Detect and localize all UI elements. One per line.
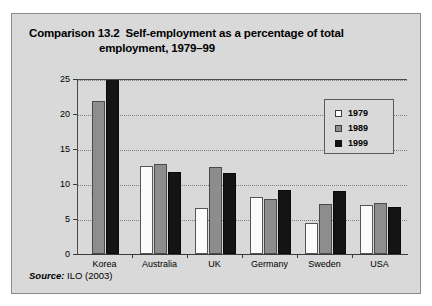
source-value: ILO (2003) xyxy=(64,270,112,281)
legend-item-1989: 1989 xyxy=(335,121,393,135)
x-axis-label-usa: USA xyxy=(352,259,407,269)
x-axis-tick xyxy=(242,254,243,258)
figure-title-line-1: Comparison 13.2 Self-employment as a per… xyxy=(29,26,401,41)
bar-sweden-1999 xyxy=(333,191,346,254)
x-axis-label-sweden: Sweden xyxy=(297,259,352,269)
x-axis-label-uk: UK xyxy=(187,259,242,269)
gridline xyxy=(78,185,407,186)
y-axis-tick-label: 5 xyxy=(50,215,70,224)
bar-uk-1979 xyxy=(195,208,208,254)
source-note: Source: ILO (2003) xyxy=(29,270,112,281)
y-axis-tick-label: 25 xyxy=(50,75,70,84)
bar-germany-1989 xyxy=(264,199,277,254)
bar-australia-1999 xyxy=(168,172,181,254)
legend-item-label: 1999 xyxy=(348,138,368,148)
legend-item-1999: 1999 xyxy=(335,136,393,150)
legend-item-1979: 1979 xyxy=(335,106,393,120)
y-axis-tick-label: 10 xyxy=(50,180,70,189)
gridline xyxy=(78,80,407,81)
bar-sweden-1989 xyxy=(319,204,332,254)
x-axis-tick xyxy=(132,254,133,258)
y-axis-tick-label: 20 xyxy=(50,110,70,119)
legend-item-label: 1979 xyxy=(348,108,368,118)
bar-uk-1989 xyxy=(209,167,222,254)
bar-australia-1989 xyxy=(154,164,167,254)
black-square-icon xyxy=(335,140,342,147)
bar-germany-1979 xyxy=(250,197,263,254)
bar-korea-1989 xyxy=(92,101,105,254)
y-axis: Per cent of total employment 0510152025 xyxy=(52,79,77,254)
bar-korea-1999 xyxy=(106,80,119,254)
gray-square-icon xyxy=(335,125,342,132)
x-axis-label-australia: Australia xyxy=(132,259,187,269)
white-square-icon xyxy=(335,110,342,117)
figure-title: Comparison 13.2 Self-employment as a per… xyxy=(29,26,401,56)
source-label: Source: xyxy=(29,270,64,281)
bar-usa-1989 xyxy=(374,203,387,254)
x-axis-tick xyxy=(187,254,188,258)
x-axis-tick xyxy=(352,254,353,258)
bar-usa-1999 xyxy=(388,207,401,254)
bar-germany-1999 xyxy=(278,190,291,254)
y-axis-tick-label: 15 xyxy=(50,145,70,154)
figure-panel: Comparison 13.2 Self-employment as a per… xyxy=(11,13,421,294)
x-axis-label-germany: Germany xyxy=(242,259,297,269)
chart-legend: 197919891999 xyxy=(324,99,394,154)
bar-usa-1979 xyxy=(360,205,373,254)
bar-uk-1999 xyxy=(223,173,236,254)
x-axis-tick xyxy=(297,254,298,258)
x-axis-label-korea: Korea xyxy=(77,259,132,269)
gridline xyxy=(78,220,407,221)
bar-australia-1979 xyxy=(140,166,153,254)
bar-sweden-1979 xyxy=(305,223,318,254)
y-axis-tick-label: 0 xyxy=(50,250,70,259)
legend-item-label: 1989 xyxy=(348,123,368,133)
figure-title-line-2: employment, 1979–99 xyxy=(29,41,401,56)
